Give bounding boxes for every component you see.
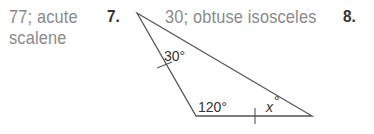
angle-label-bottom-left: 120° xyxy=(198,99,227,115)
triangle-figure: 30° 120° x ° xyxy=(0,0,374,134)
angle-label-top: 30° xyxy=(164,48,185,64)
angle-label-x: x xyxy=(265,99,274,115)
angle-label-x-degree: ° xyxy=(274,93,280,109)
